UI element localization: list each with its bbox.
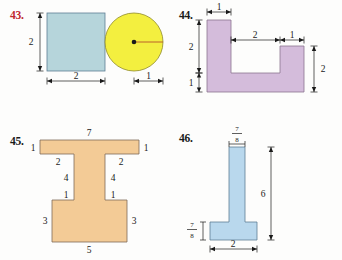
- label-right-arm-width-44: 1: [290, 30, 295, 40]
- dimension-left-bottom-44: 1: [189, 73, 203, 92]
- i-beam-shape-45: [40, 140, 139, 242]
- dimension-circle-radius-43: 1: [134, 71, 163, 85]
- label-shoulder-right-45: 2: [119, 157, 124, 167]
- label-stem-right-45: 4: [111, 173, 116, 183]
- label-foot-width-46: 2: [231, 239, 236, 249]
- dimension-left-arm-width-44: 1: [207, 2, 231, 16]
- figure-44: 1 2 1: [175, 0, 342, 110]
- label-total-height-46: 6: [261, 189, 266, 199]
- square-shape-43: [47, 13, 105, 71]
- problem-46: 46. 7 8 6: [175, 110, 342, 260]
- figure-46: 7 8 6 7 8: [175, 110, 342, 260]
- label-foot-height-46: 7 8: [187, 221, 197, 240]
- label-square-width-43: 2: [74, 71, 79, 81]
- label-stem-left-45: 4: [64, 173, 69, 183]
- t-shape-46: [210, 147, 257, 240]
- dimension-total-height-46: 6: [261, 147, 275, 240]
- label-top-width-45: 7: [87, 128, 92, 138]
- dimension-right-arm-width-44: 1: [280, 30, 304, 44]
- figure-45: 7 1 1 2 2 4 4 1 1 3 3 5: [0, 110, 175, 260]
- dimension-square-height-43: 2: [29, 13, 44, 71]
- label-base-width-45: 5: [87, 245, 92, 255]
- label-left-height-44: 2: [189, 42, 194, 52]
- label-shoulder-left-45: 2: [56, 157, 61, 167]
- label-base-right-height-45: 3: [132, 216, 137, 226]
- label-lower-shoulder-right-45: 1: [111, 190, 116, 200]
- label-right-height-44: 2: [321, 64, 326, 74]
- dimension-right-height-44: 2: [311, 46, 326, 92]
- label-lower-shoulder-left-45: 1: [64, 190, 69, 200]
- dimension-foot-height-46: [200, 222, 206, 240]
- label-top-width-numerator-46: 7: [235, 125, 239, 133]
- label-foot-height-denominator-46: 8: [190, 232, 194, 240]
- label-top-width-denominator-46: 8: [235, 136, 239, 144]
- problem-43: 43. 2 2: [0, 0, 175, 110]
- dimension-foot-width-46: 2: [210, 239, 257, 253]
- problem-45: 45. 7 1 1 2 2 4 4 1 1 3 3: [0, 110, 175, 260]
- label-square-height-43: 2: [29, 37, 34, 47]
- dimension-square-width-43: 2: [47, 71, 105, 85]
- label-notch-width-44: 2: [253, 30, 258, 40]
- label-left-bottom-44: 1: [189, 78, 194, 88]
- problem-44: 44. 1 2: [175, 0, 342, 110]
- label-left-arm-width-44: 1: [217, 2, 222, 12]
- label-circle-radius-43: 1: [146, 71, 151, 81]
- figure-43: 2 2 1: [0, 0, 175, 110]
- label-foot-height-numerator-46: 7: [190, 221, 194, 229]
- dimension-left-height-44: 2: [189, 20, 203, 73]
- label-top-left-height-45: 1: [31, 143, 36, 153]
- dimension-notch-width-44: 2: [231, 30, 280, 44]
- label-top-width-46: 7 8: [232, 125, 242, 144]
- label-base-left-height-45: 3: [43, 216, 48, 226]
- circle-center-dot-43: [132, 40, 137, 45]
- label-top-right-height-45: 1: [144, 143, 149, 153]
- worksheet-page: 43. 2 2: [0, 0, 342, 260]
